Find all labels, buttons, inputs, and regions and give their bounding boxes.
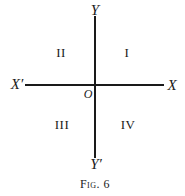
quadrant-i-label: I bbox=[125, 46, 130, 59]
y-positive-label: Y bbox=[91, 3, 99, 18]
quadrant-iii-label: III bbox=[55, 118, 70, 131]
origin-label: O bbox=[84, 88, 93, 100]
quadrant-iv-label: IV bbox=[121, 118, 136, 131]
quadrant-ii-label: II bbox=[56, 46, 66, 59]
y-negative-label: Y′ bbox=[90, 157, 102, 172]
y-axis-line bbox=[94, 16, 96, 158]
coordinate-plane-figure: Y Y′ X′ X O I II III IV Fig. 6 bbox=[0, 0, 185, 196]
figure-caption: Fig. 6 bbox=[80, 178, 110, 190]
x-positive-label: X bbox=[167, 78, 176, 93]
x-negative-label: X′ bbox=[11, 77, 23, 92]
